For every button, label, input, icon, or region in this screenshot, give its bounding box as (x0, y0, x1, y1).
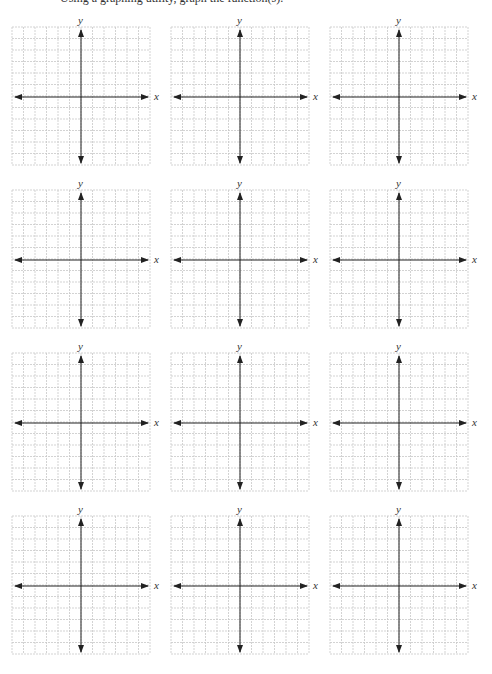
arrow-right-icon (300, 583, 308, 589)
coordinate-grid: xy (171, 190, 309, 328)
x-axis-label: x (471, 416, 477, 428)
arrow-left-icon (14, 257, 22, 263)
arrow-right-icon (459, 420, 467, 426)
arrow-up-icon (396, 192, 402, 200)
y-axis-label: y (395, 14, 401, 26)
y-axis-label: y (77, 177, 83, 189)
coordinate-grid: xy (330, 516, 468, 654)
arrow-right-icon (141, 583, 149, 589)
arrow-down-icon (396, 482, 402, 490)
arrow-right-icon (459, 257, 467, 263)
arrow-up-icon (78, 355, 84, 363)
arrow-down-icon (78, 645, 84, 653)
arrow-down-icon (237, 645, 243, 653)
coordinate-grid: xy (12, 27, 150, 165)
arrow-left-icon (332, 583, 340, 589)
arrow-up-icon (78, 518, 84, 526)
y-axis-label: y (236, 14, 242, 26)
arrow-left-icon (14, 94, 22, 100)
y-axis-label: y (236, 503, 242, 515)
arrow-up-icon (396, 355, 402, 363)
arrow-down-icon (396, 319, 402, 327)
arrow-down-icon (396, 156, 402, 164)
y-axis-label: y (395, 503, 401, 515)
arrow-right-icon (300, 420, 308, 426)
arrow-up-icon (78, 192, 84, 200)
arrow-right-icon (141, 420, 149, 426)
coordinate-grid: xy (330, 27, 468, 165)
x-axis-label: x (153, 253, 159, 265)
arrow-left-icon (332, 94, 340, 100)
arrow-up-icon (78, 29, 84, 37)
x-axis-label: x (312, 416, 318, 428)
arrow-up-icon (237, 518, 243, 526)
arrow-down-icon (237, 482, 243, 490)
arrow-left-icon (14, 583, 22, 589)
coordinate-grid: xy (171, 353, 309, 491)
x-axis-label: x (471, 253, 477, 265)
arrow-right-icon (300, 94, 308, 100)
x-axis-label: x (153, 416, 159, 428)
coordinate-grid: xy (330, 353, 468, 491)
arrow-up-icon (237, 29, 243, 37)
arrow-left-icon (173, 257, 181, 263)
coordinate-grid: xy (12, 516, 150, 654)
x-axis-label: x (312, 253, 318, 265)
x-axis-label: x (312, 90, 318, 102)
arrow-right-icon (141, 94, 149, 100)
arrow-up-icon (396, 518, 402, 526)
arrow-down-icon (396, 645, 402, 653)
coordinate-grid: xy (171, 27, 309, 165)
arrow-up-icon (237, 355, 243, 363)
instruction-text: Using a graphing utility, graph the func… (60, 0, 283, 6)
arrow-up-icon (237, 192, 243, 200)
arrow-left-icon (14, 420, 22, 426)
arrow-right-icon (459, 94, 467, 100)
x-axis-label: x (471, 90, 477, 102)
y-axis-label: y (236, 340, 242, 352)
arrow-down-icon (78, 156, 84, 164)
coordinate-grid: xy (12, 190, 150, 328)
arrow-up-icon (396, 29, 402, 37)
coordinate-grid: xy (12, 353, 150, 491)
arrow-right-icon (459, 583, 467, 589)
arrow-left-icon (332, 420, 340, 426)
y-axis-label: y (77, 14, 83, 26)
arrow-left-icon (173, 420, 181, 426)
x-axis-label: x (471, 579, 477, 591)
coordinate-grid: xy (171, 516, 309, 654)
arrow-down-icon (237, 156, 243, 164)
arrow-left-icon (173, 94, 181, 100)
y-axis-label: y (395, 177, 401, 189)
y-axis-label: y (77, 503, 83, 515)
x-axis-label: x (153, 90, 159, 102)
y-axis-label: y (236, 177, 242, 189)
coordinate-grid: xy (330, 190, 468, 328)
arrow-left-icon (173, 583, 181, 589)
arrow-right-icon (141, 257, 149, 263)
arrow-down-icon (78, 319, 84, 327)
y-axis-label: y (77, 340, 83, 352)
arrow-left-icon (332, 257, 340, 263)
arrow-right-icon (300, 257, 308, 263)
y-axis-label: y (395, 340, 401, 352)
x-axis-label: x (312, 579, 318, 591)
arrow-down-icon (78, 482, 84, 490)
arrow-down-icon (237, 319, 243, 327)
x-axis-label: x (153, 579, 159, 591)
